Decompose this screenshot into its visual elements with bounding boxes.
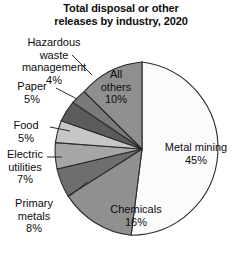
slice-label-all-others: All others 10% [92,68,140,106]
slice-label-hazardous-waste-management: Hazardous waste management 4% [6,36,102,86]
slice-label-metal-mining: Metal mining 45% [153,141,239,166]
food-label-text: Food [2,119,50,132]
metal-mining-label-text: Metal mining [153,141,239,154]
electric-label-line-2: utilities [0,161,50,174]
hazardous-label-line-3: management [6,61,102,74]
slice-label-paper: Paper 5% [6,80,58,105]
leader-line-paper [56,88,77,99]
hazardous-label-line-2: waste [6,49,102,62]
metal-mining-label-value: 45% [153,154,239,167]
all-others-label-value: 10% [92,93,140,106]
primary-metals-label-value: 8% [4,222,64,235]
food-label-value: 5% [2,132,50,145]
all-others-label-line-1: All [92,68,140,81]
primary-metals-label-line-1: Primary [4,197,64,210]
paper-label-value: 5% [6,93,58,106]
slice-label-chemicals: Chemicals 16% [100,203,172,228]
slice-label-food: Food 5% [2,119,50,144]
hazardous-label-line-1: Hazardous [6,36,102,49]
chemicals-label-value: 16% [100,216,172,229]
all-others-label-line-2: others [92,81,140,94]
primary-metals-label-line-2: metals [4,210,64,223]
slice-label-electric-utilities: Electric utilities 7% [0,148,50,186]
slice-label-primary-metals: Primary metals 8% [4,197,64,235]
pie-chart: Total disposal or other releases by indu… [0,0,242,254]
paper-label-text: Paper [6,80,58,93]
electric-label-line-1: Electric [0,148,50,161]
electric-label-value: 7% [0,173,50,186]
chemicals-label-text: Chemicals [100,203,172,216]
